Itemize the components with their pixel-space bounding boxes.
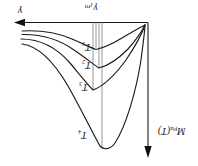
curve-label-t2: T₂	[82, 60, 91, 70]
figure-drawing	[0, 0, 198, 166]
gamma-axis-label: γ	[18, 6, 22, 17]
curve-label-t1: T₁	[82, 42, 91, 52]
gamma-1m-label: γ₁ₘ	[84, 3, 98, 13]
gamma-axis-arrowhead	[14, 19, 25, 26]
m-axis-label: Mₚₐ(T)	[158, 126, 185, 136]
curve-label-t4: T₄	[78, 130, 87, 140]
m-axis-arrowhead	[144, 146, 151, 158]
m-axis-group	[144, 23, 151, 159]
curve-label-t3: T₃	[79, 82, 88, 92]
gamma-axis-group	[14, 19, 148, 26]
figure-container: γ γ₁ₘ T₁ T₂ T₃ T₄ Mₚₐ(T)	[0, 0, 198, 166]
